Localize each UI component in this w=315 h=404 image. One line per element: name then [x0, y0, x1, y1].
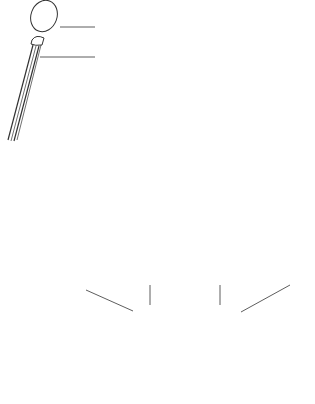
rubber-teat — [26, 0, 61, 35]
pipette — [8, 0, 95, 141]
start-label-pointers — [86, 285, 290, 312]
dilution-diagram — [0, 0, 315, 404]
teat-collar — [31, 36, 44, 45]
